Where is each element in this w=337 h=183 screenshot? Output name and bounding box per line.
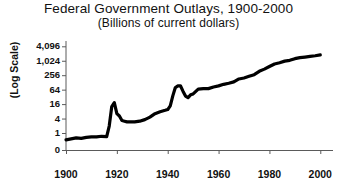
plot-area <box>0 0 337 183</box>
chart-container: Federal Government Outlays, 1900-2000 (B… <box>0 0 337 183</box>
data-series-line <box>66 55 320 140</box>
y-axis-ticks <box>62 47 66 151</box>
